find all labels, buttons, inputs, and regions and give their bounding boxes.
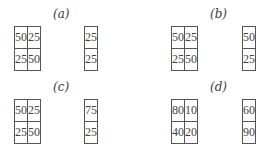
vector-grid: 25 25 — [84, 26, 98, 71]
matrix-cell: 50 — [15, 100, 28, 122]
matrix-cell: 25 — [28, 100, 41, 122]
vector-grid: 50 25 — [242, 26, 256, 71]
matrix-cell: 80 — [172, 100, 185, 122]
panel-label: (d) — [210, 80, 227, 94]
matrix-cell: 25 — [185, 27, 198, 49]
matrix-grid: 5025 2550 — [14, 99, 41, 144]
matrix-grid: 5025 2550 — [171, 26, 198, 71]
matrix-grid: 5025 2550 — [14, 26, 41, 71]
vector-cell: 75 — [85, 100, 98, 122]
matrix-cell: 25 — [28, 27, 41, 49]
vector-cell: 25 — [85, 49, 98, 71]
panel-label: (b) — [210, 7, 227, 21]
matrix-cell: 25 — [15, 49, 28, 71]
panel-label: (c) — [53, 80, 69, 94]
vector-cell: 60 — [243, 100, 256, 122]
panel-label: (a) — [53, 7, 70, 21]
vector-grid: 75 25 — [84, 99, 98, 144]
matrix-cell: 50 — [28, 122, 41, 144]
matrix-cell: 50 — [28, 49, 41, 71]
matrix-cell: 50 — [15, 27, 28, 49]
vector-cell: 50 — [243, 27, 256, 49]
matrix-cell: 25 — [172, 49, 185, 71]
vector-grid: 60 90 — [242, 99, 256, 144]
vector-cell: 25 — [243, 49, 256, 71]
matrix-grid: 8010 4020 — [171, 99, 198, 144]
matrix-cell: 50 — [172, 27, 185, 49]
matrix-cell: 50 — [185, 49, 198, 71]
matrix-cell: 20 — [185, 122, 198, 144]
matrix-cell: 40 — [172, 122, 185, 144]
vector-cell: 25 — [85, 122, 98, 144]
vector-cell: 90 — [243, 122, 256, 144]
matrix-cell: 25 — [15, 122, 28, 144]
matrix-cell: 10 — [185, 100, 198, 122]
vector-cell: 25 — [85, 27, 98, 49]
